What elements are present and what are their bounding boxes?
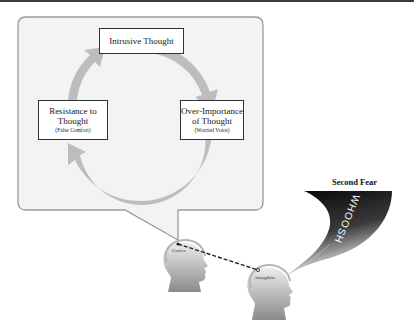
cortex-label: Cortex bbox=[172, 248, 186, 253]
amygdala-label: Amygdala bbox=[254, 275, 275, 280]
head-amygdala bbox=[247, 265, 293, 320]
second-fear-title: Second Fear bbox=[332, 177, 377, 187]
node-over-importance-title-1: Over-Importance bbox=[181, 106, 243, 116]
node-resistance: Resistance to Thought (False Comfort) bbox=[38, 100, 108, 140]
node-over-importance: Over-Importance of Thought (Worried Voic… bbox=[180, 100, 244, 140]
node-over-importance-subtitle: (Worried Voice) bbox=[181, 126, 243, 134]
node-intrusive-thought: Intrusive Thought bbox=[99, 28, 184, 54]
node-resistance-title-2: Thought bbox=[39, 116, 107, 126]
node-resistance-subtitle: (False Comfort) bbox=[39, 126, 107, 134]
diagram-canvas bbox=[0, 0, 414, 335]
node-intrusive-title: Intrusive Thought bbox=[100, 36, 183, 46]
node-over-importance-title-2: of Thought bbox=[181, 116, 243, 126]
node-resistance-title-1: Resistance to bbox=[39, 106, 107, 116]
